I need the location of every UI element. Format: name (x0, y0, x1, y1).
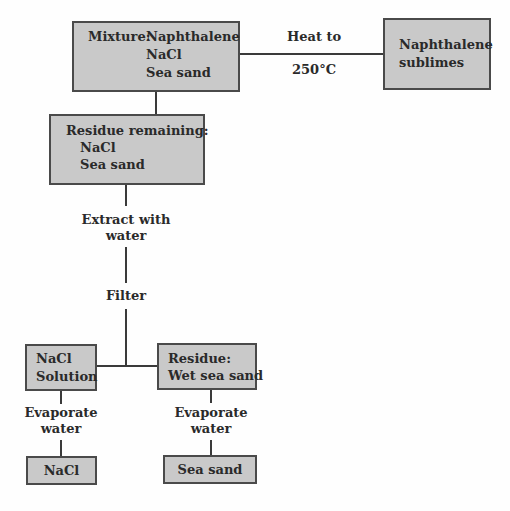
connector-evap-nacl (60, 440, 62, 456)
extract-step-line2: water (76, 228, 176, 244)
nacl-solution-line2: Solution (36, 369, 98, 385)
nacl-solution-box: NaCl Solution (25, 344, 97, 391)
connector-extract-filter (125, 247, 127, 283)
connector-residue-evap (210, 390, 212, 403)
residue-item-nacl: NaCl (80, 140, 116, 156)
connector-solution-evap (60, 391, 62, 404)
sublimes-line2: sublimes (399, 55, 464, 71)
flowchart: Mixture: Naphthalene NaCl Sea sand Heat … (0, 0, 510, 511)
heat-step-line2: 250°C (284, 62, 344, 78)
evaporate-left-line2: water (21, 421, 101, 437)
mixture-item-nacl: NaCl (146, 47, 182, 63)
evaporate-right-line1: Evaporate (171, 405, 251, 421)
nacl-final-label: NaCl (28, 463, 95, 479)
extract-step-line1: Extract with (76, 212, 176, 228)
sublimes-line1: Naphthalene (399, 37, 493, 53)
connector-filter-split (125, 309, 127, 367)
nacl-solution-line1: NaCl (36, 351, 72, 367)
sea-sand-final-box: Sea sand (163, 455, 257, 484)
connector-split-horizontal (97, 365, 158, 367)
residue-item-sand: Sea sand (80, 157, 145, 173)
connector-mixture-residue (155, 91, 157, 114)
mixture-box: Mixture: Naphthalene NaCl Sea sand (72, 21, 240, 92)
connector-evap-sand (210, 440, 212, 455)
mixture-item-sand: Sea sand (146, 65, 211, 81)
wet-residue-line1: Residue: (168, 351, 231, 367)
residue-remaining-box: Residue remaining: NaCl Sea sand (49, 114, 205, 185)
filter-step: Filter (96, 288, 156, 304)
nacl-final-box: NaCl (26, 456, 97, 485)
naphthalene-sublimes-box: Naphthalene sublimes (383, 18, 491, 90)
sea-sand-final-label: Sea sand (165, 462, 255, 478)
evaporate-right-line2: water (171, 421, 251, 437)
connector-residue-extract (125, 184, 127, 206)
evaporate-left-line1: Evaporate (21, 405, 101, 421)
mixture-item-naphthalene: Naphthalene (146, 29, 240, 45)
connector-heat (239, 53, 384, 55)
heat-step-line1: Heat to (284, 29, 344, 45)
wet-residue-box: Residue: Wet sea sand (157, 343, 257, 390)
residue-remaining-label: Residue remaining: (66, 123, 209, 139)
mixture-label: Mixture: (88, 29, 150, 45)
wet-residue-line2: Wet sea sand (168, 368, 263, 384)
